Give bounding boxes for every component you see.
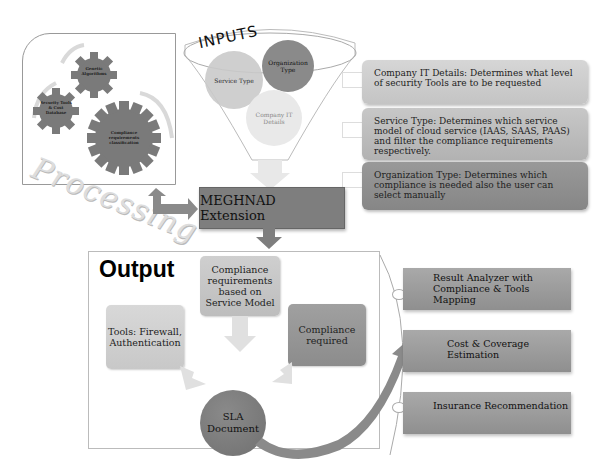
output-title: Output bbox=[99, 256, 174, 283]
result-analyzer-box: Result Analyzer with Compliance & Tools … bbox=[403, 268, 571, 310]
cost-coverage-box: Cost & Coverage Estimation bbox=[403, 330, 571, 372]
info-service-type: Service Type: Determines which service m… bbox=[362, 108, 588, 160]
gear-label-security: Security Tools & Cost Database bbox=[40, 100, 72, 115]
insurance-recommendation-box: Insurance Recommendation bbox=[403, 392, 571, 434]
gear-label-compliance: Compliance requirements classification bbox=[104, 130, 144, 145]
arrow-down-icon bbox=[250, 160, 290, 190]
sla-to-results-arrow-icon bbox=[230, 250, 430, 460]
input-company-it-details: Company IT Details bbox=[246, 90, 302, 146]
info-organization-type: Organization Type: Determines which comp… bbox=[362, 162, 588, 210]
output-tools: Tools: Firewall, Authentication bbox=[106, 305, 184, 369]
arrow-down-icon bbox=[254, 228, 284, 250]
input-organization-type: Organization Type bbox=[262, 40, 314, 92]
arrow-right-icon bbox=[180, 366, 206, 390]
gear-label-genetic: Genetic Algorithms bbox=[80, 66, 108, 76]
arrow-to-processing-icon bbox=[146, 178, 202, 226]
info-company-it-details: Company IT Details: Determines what leve… bbox=[362, 60, 588, 104]
meghnad-extension-box: MEGHNAD Extension bbox=[199, 187, 345, 229]
